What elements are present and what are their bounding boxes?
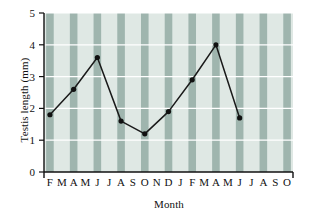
data-point-marker — [142, 131, 147, 136]
background-band — [212, 13, 220, 172]
background-band — [94, 13, 102, 172]
background-band — [141, 13, 149, 172]
x-tick-label: A — [212, 176, 220, 188]
data-point-marker — [118, 119, 123, 124]
x-tick-label: A — [70, 176, 78, 188]
y-tick-label: 4 — [30, 39, 36, 51]
data-point-marker — [95, 55, 100, 60]
x-tick-label: S — [272, 176, 278, 188]
x-tick-label: A — [117, 176, 125, 188]
x-tick-label: O — [141, 176, 149, 188]
x-tick-label: O — [283, 176, 291, 188]
x-tick-label-group: FMAMJJASONDJFMAMJJASO — [47, 176, 291, 188]
x-tick-label: J — [95, 176, 100, 188]
y-tick-label: 0 — [30, 166, 36, 178]
x-axis-title: Month — [44, 198, 294, 210]
plot-background-bands — [44, 13, 293, 172]
y-tick-label: 2 — [30, 102, 36, 114]
data-point-marker — [237, 115, 242, 120]
background-band — [46, 13, 54, 172]
x-tick-label: J — [178, 176, 183, 188]
x-tick-label: D — [165, 176, 173, 188]
y-axis-title: Testis length (mm) — [18, 30, 30, 170]
x-tick-label: J — [237, 176, 242, 188]
x-tick-label: J — [107, 176, 112, 188]
x-tick-label: M — [57, 176, 67, 188]
x-tick-label: N — [153, 176, 161, 188]
data-point-marker — [190, 77, 195, 82]
x-tick-label: F — [189, 176, 195, 188]
background-band — [188, 13, 196, 172]
data-point-marker — [47, 112, 52, 117]
x-axis: FMAMJJASONDJFMAMJJASO — [44, 172, 293, 188]
background-band — [236, 13, 244, 172]
data-point-marker — [166, 109, 171, 114]
y-tick-label: 3 — [30, 71, 36, 83]
background-band — [165, 13, 173, 172]
x-tick-label: J — [249, 176, 254, 188]
data-point-marker — [71, 87, 76, 92]
x-tick-label: M — [199, 176, 209, 188]
background-band — [283, 13, 291, 172]
x-tick-label: M — [81, 176, 91, 188]
data-point-marker — [213, 42, 218, 47]
background-band — [117, 13, 125, 172]
x-tick-label: A — [259, 176, 267, 188]
background-band — [260, 13, 268, 172]
x-tick-label: S — [130, 176, 136, 188]
x-tick-label: F — [47, 176, 53, 188]
y-axis: 012345 — [30, 7, 45, 178]
chart-figure: 012345 FMAMJJASONDJFMAMJJASO Testis leng… — [0, 0, 312, 222]
y-tick-label: 5 — [30, 7, 36, 19]
testis-length-line-chart: 012345 FMAMJJASONDJFMAMJJASO — [0, 0, 312, 222]
x-tick-label: M — [223, 176, 233, 188]
y-tick-label: 1 — [30, 134, 36, 146]
y-tick-group: 012345 — [30, 7, 45, 178]
